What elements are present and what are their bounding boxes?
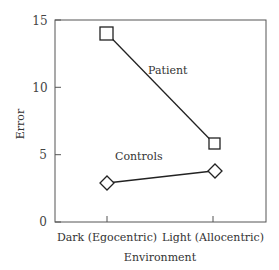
series-controls: Controls — [100, 150, 222, 190]
x-tick-label: Light (Allocentric) — [162, 231, 264, 244]
y-tick-label: 0 — [39, 215, 47, 229]
line-chart: 0 5 10 15 Error Dark (Egocentric) Light … — [0, 0, 279, 270]
y-axis: 0 5 10 15 Error — [14, 14, 61, 229]
y-tick-label: 15 — [32, 14, 47, 28]
diamond-marker — [208, 164, 222, 178]
x-tick-label: Dark (Egocentric) — [57, 231, 157, 244]
diamond-marker — [100, 176, 114, 190]
square-marker — [100, 27, 113, 40]
y-axis-title: Error — [14, 108, 27, 139]
series-label-controls: Controls — [115, 150, 163, 163]
y-tick-label: 5 — [39, 148, 47, 162]
series-patient: Patient — [100, 27, 220, 149]
x-axis: Dark (Egocentric) Light (Allocentric) En… — [57, 216, 264, 264]
y-tick-label: 10 — [32, 81, 47, 95]
x-axis-title: Environment — [124, 251, 197, 264]
square-marker — [209, 138, 220, 149]
series-label-patient: Patient — [148, 64, 188, 77]
plot-frame — [55, 20, 266, 222]
